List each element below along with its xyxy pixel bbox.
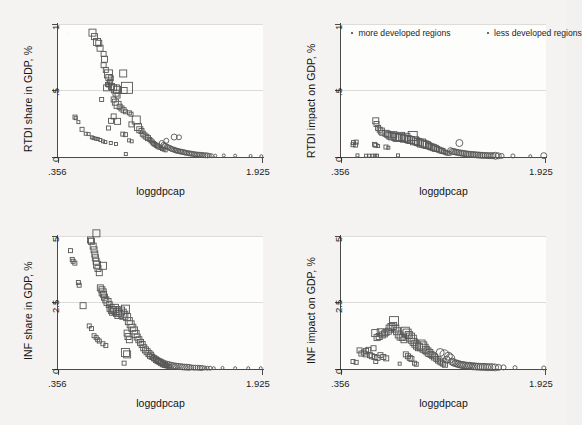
data-point <box>104 141 107 144</box>
data-point <box>101 51 106 56</box>
data-point <box>100 98 104 102</box>
data-point <box>212 367 215 370</box>
data-point <box>102 56 108 62</box>
panel-inf-impact: 5 2.5 0 .356 1.925 INF impact on GDP, % … <box>283 212 566 425</box>
data-point <box>69 249 73 253</box>
data-point <box>132 116 140 124</box>
data-point <box>115 142 118 145</box>
data-point <box>74 117 77 120</box>
scatter-markers <box>283 0 566 212</box>
data-point <box>124 153 127 156</box>
data-point <box>93 230 100 237</box>
data-point <box>121 88 127 94</box>
data-point <box>368 154 371 157</box>
scatter-markers <box>0 0 283 212</box>
panel-rtdi-share: 1 .5 0 .356 1.925 RTDI share in GDP, % l… <box>0 0 283 212</box>
data-point <box>221 366 224 369</box>
data-point <box>77 121 80 124</box>
data-point <box>214 154 217 157</box>
data-point <box>542 366 546 370</box>
data-point <box>365 154 368 157</box>
data-point <box>356 154 359 157</box>
data-point <box>122 361 126 365</box>
data-point <box>87 133 90 136</box>
data-point <box>208 366 212 370</box>
data-point <box>121 349 129 357</box>
data-point <box>513 366 517 370</box>
data-point <box>541 153 547 159</box>
data-point <box>260 155 263 158</box>
scatter-markers <box>0 212 283 425</box>
data-point <box>259 367 262 370</box>
data-point <box>384 145 388 149</box>
data-point <box>234 154 237 157</box>
data-point <box>249 154 252 157</box>
data-point <box>247 367 250 370</box>
panel-inf-share: 5 2.5 0 .356 1.925 INF share in GDP, % l… <box>0 212 283 425</box>
data-point <box>396 154 399 157</box>
panel-rtdi-impact: 1 .5 0 .356 1.925 RTDI impact on GDP, % … <box>283 0 566 212</box>
data-point <box>80 127 84 131</box>
data-point <box>80 303 86 309</box>
data-point <box>120 70 127 77</box>
data-point <box>222 154 225 157</box>
data-point <box>97 285 103 291</box>
scatter-markers <box>283 212 566 425</box>
data-point <box>371 346 376 351</box>
data-point <box>529 155 532 158</box>
data-point <box>109 142 112 145</box>
data-point <box>89 29 96 36</box>
data-point <box>234 367 237 370</box>
data-point <box>378 128 384 134</box>
data-point <box>456 140 463 147</box>
data-point <box>130 140 133 143</box>
data-point <box>106 126 110 130</box>
data-point <box>390 317 399 326</box>
data-point <box>511 154 515 158</box>
data-point <box>398 362 401 365</box>
